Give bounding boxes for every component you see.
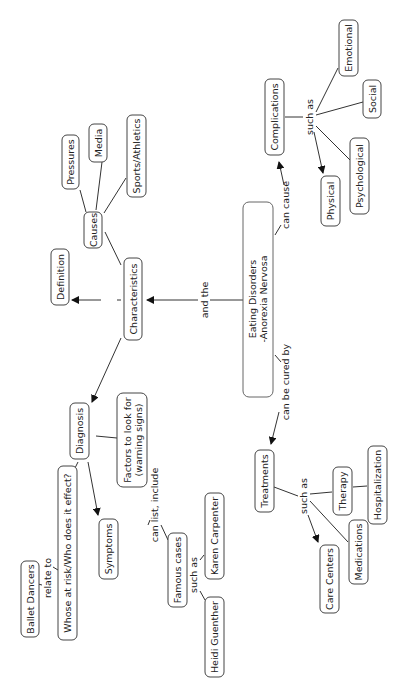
- svg-text:Heidi Guenther: Heidi Guenther: [209, 601, 220, 673]
- svg-text:and the: and the: [199, 282, 210, 319]
- root-line2: -Anorexia Nervosa: [258, 255, 269, 342]
- node-treatments[interactable]: Treatments: [255, 450, 274, 512]
- node-definition[interactable]: Definition: [51, 249, 69, 305]
- svg-text:Famous cases: Famous cases: [172, 537, 183, 603]
- svg-text:can be cured by: can be cured by: [280, 343, 291, 420]
- node-emotional[interactable]: Emotional: [339, 20, 358, 76]
- node-factors-warning-signs[interactable]: Factors to look for (warning signs): [117, 393, 147, 487]
- svg-text:Sports/Athletics: Sports/Athletics: [131, 119, 142, 194]
- svg-text:Complications: Complications: [269, 83, 280, 150]
- node-care-centers[interactable]: Care Centers: [320, 545, 339, 613]
- edges: [38, 68, 367, 600]
- svg-text:Physical: Physical: [325, 182, 336, 221]
- node-complications[interactable]: Complications: [265, 79, 284, 155]
- link-label-such-as-famous: such as: [188, 557, 199, 593]
- svg-text:relate to: relate to: [42, 558, 53, 598]
- svg-text:Media: Media: [93, 129, 104, 158]
- svg-text:Symptoms: Symptoms: [103, 524, 114, 575]
- link-label-can-cause: can cause: [280, 181, 291, 229]
- edge-suchas-heidi: [200, 591, 205, 600]
- concept-map-svg: Eating Disorders -Anorexia Nervosa Chara…: [0, 0, 398, 695]
- edge-causes-media: [96, 162, 102, 210]
- node-famous-cases[interactable]: Famous cases: [168, 533, 187, 607]
- edge-suchas-carecenters: [308, 515, 318, 542]
- concept-map-canvas: Eating Disorders -Anorexia Nervosa Chara…: [0, 0, 398, 695]
- node-karen-carpenter[interactable]: Karen Carpenter: [205, 493, 224, 579]
- svg-text:Characteristics: Characteristics: [128, 263, 139, 334]
- edge-char-causes: [105, 232, 121, 265]
- svg-text:Pressures: Pressures: [65, 139, 76, 185]
- svg-text:Whose at risk/Who does it effe: Whose at risk/Who does it effect?: [62, 473, 73, 632]
- edge-causes-sports: [104, 178, 126, 213]
- edge-suchas-psychological: [316, 126, 350, 160]
- node-hospitalization[interactable]: Hospitalization: [368, 446, 387, 524]
- node-pressures[interactable]: Pressures: [62, 135, 79, 189]
- edge-treatments-suchas: [274, 487, 298, 496]
- node-sports-athletics[interactable]: Sports/Athletics: [127, 115, 146, 197]
- edge-canlist-famous: [161, 525, 168, 540]
- edge-char-diagnosis: [92, 338, 121, 402]
- svg-text:such as: such as: [304, 99, 315, 135]
- edge-suchas-emotional: [316, 68, 338, 112]
- svg-text:such as: such as: [188, 557, 199, 593]
- edge-causes-pressures: [80, 190, 86, 212]
- node-media[interactable]: Media: [89, 124, 107, 162]
- link-label-can-be-cured-by: can be cured by: [280, 343, 291, 420]
- svg-text:Medications: Medications: [353, 524, 364, 581]
- edge-suchas-social: [316, 102, 363, 115]
- svg-text:Emotional: Emotional: [343, 24, 354, 72]
- node-psychological[interactable]: Psychological: [350, 138, 369, 214]
- node-physical[interactable]: Physical: [321, 176, 340, 226]
- node-symptoms[interactable]: Symptoms: [99, 519, 118, 579]
- link-label-relate-to: relate to: [42, 558, 53, 598]
- link-label-can-list-include: can list, include: [149, 468, 160, 543]
- svg-text:Diagnosis: Diagnosis: [74, 408, 85, 454]
- svg-text:Karen Carpenter: Karen Carpenter: [209, 497, 220, 575]
- link-label-such-as-complications: such as: [304, 99, 315, 135]
- svg-text:Hospitalization: Hospitalization: [372, 450, 383, 520]
- link-label-and-the: and the: [199, 282, 210, 319]
- node-therapy[interactable]: Therapy: [333, 467, 352, 515]
- node-characteristics[interactable]: Characteristics: [124, 258, 142, 340]
- svg-text:Treatments: Treatments: [259, 454, 270, 508]
- node-root-text: Eating Disorders -Anorexia Nervosa: [247, 255, 269, 342]
- svg-text:Ballet Dancers: Ballet Dancers: [25, 564, 36, 633]
- node-heidi-guenther[interactable]: Heidi Guenther: [205, 597, 224, 677]
- node-causes[interactable]: Causes: [84, 212, 102, 248]
- edge-therapy-hospitalization: [353, 486, 367, 487]
- edge-suchas-physical: [314, 132, 323, 173]
- edge-suchas-karen: [200, 555, 204, 560]
- edge-diagnosis-symptoms: [88, 462, 98, 515]
- svg-text:can cause: can cause: [280, 181, 291, 229]
- svg-text:Care Centers: Care Centers: [324, 548, 335, 610]
- svg-text:Factors to look for: Factors to look for: [122, 397, 133, 483]
- edge-diagnosis-factors: [96, 436, 117, 438]
- node-medications[interactable]: Medications: [349, 520, 368, 584]
- svg-text:(warning signs): (warning signs): [133, 403, 144, 476]
- svg-text:Psychological: Psychological: [354, 144, 365, 208]
- node-social[interactable]: Social: [363, 80, 381, 118]
- svg-text:Social: Social: [367, 85, 378, 113]
- node-diagnosis[interactable]: Diagnosis: [70, 403, 89, 459]
- edge-suchas-therapy: [310, 492, 332, 494]
- root-line1: Eating Disorders: [247, 260, 258, 338]
- svg-text:Therapy: Therapy: [337, 471, 348, 511]
- svg-text:Causes: Causes: [88, 213, 99, 247]
- svg-text:such as: such as: [298, 478, 309, 514]
- edge-curedby-treatments: [271, 412, 279, 444]
- svg-text:can list, include: can list, include: [149, 468, 160, 543]
- edge-whose-relate: [53, 567, 58, 570]
- svg-text:Definition: Definition: [55, 254, 66, 300]
- link-label-such-as-treatments: such as: [298, 478, 309, 514]
- node-ballet-dancers[interactable]: Ballet Dancers: [21, 561, 39, 637]
- node-whose-at-risk[interactable]: Whose at risk/Who does it effect?: [58, 466, 77, 640]
